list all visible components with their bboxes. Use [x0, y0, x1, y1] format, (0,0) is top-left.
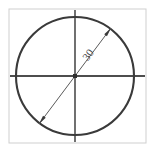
geometry-figure: 30	[0, 0, 157, 154]
center-point	[73, 74, 77, 78]
figure-canvas: 30	[0, 0, 157, 154]
